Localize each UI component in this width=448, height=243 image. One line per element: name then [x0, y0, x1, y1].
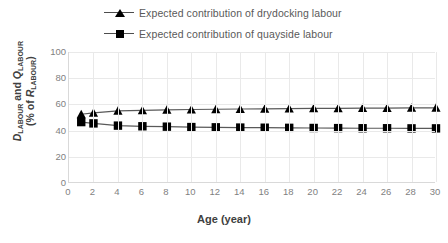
chart-legend: Expected contribution of drydocking labo… [104, 4, 342, 42]
data-point-marker [77, 118, 85, 126]
y-axis-title: DLABOUR and QLABOUR (% of RLABOUR) [11, 21, 37, 161]
y-tick-label: 100 [36, 47, 66, 57]
gridline-vertical [142, 52, 143, 182]
gridline-vertical [387, 52, 388, 182]
gridline-horizontal [69, 52, 435, 53]
y-axis-tick-labels: 020406080100 [36, 46, 66, 191]
gridline-horizontal [69, 157, 435, 158]
plot-area [68, 52, 435, 183]
gridline-vertical [216, 52, 217, 182]
y-tick-label: 80 [36, 73, 66, 83]
legend-marker-triangle-icon [104, 7, 134, 19]
gridline-vertical [191, 52, 192, 182]
gridline-vertical [265, 52, 266, 182]
x-tick-label: 24 [350, 187, 374, 197]
gridline-vertical [338, 52, 339, 182]
x-tick-label: 6 [129, 187, 153, 197]
gridline-horizontal [69, 131, 435, 132]
x-tick-label: 28 [399, 187, 423, 197]
gridline-vertical [118, 52, 119, 182]
legend-item-drydocking: Expected contribution of drydocking labo… [104, 4, 342, 21]
series-line-quayside [81, 122, 436, 128]
x-tick-label: 0 [56, 187, 80, 197]
legend-label-quayside: Expected contribution of quayside labour [134, 28, 333, 40]
y-tick-label: 60 [36, 99, 66, 109]
x-tick-label: 18 [276, 187, 300, 197]
x-axis-tick-labels: 024681012141618202224262830 [68, 187, 435, 199]
series-layer [69, 52, 436, 183]
gridline-vertical [436, 52, 437, 182]
gridline-vertical [314, 52, 315, 182]
x-tick-label: 10 [178, 187, 202, 197]
gridline-vertical [167, 52, 168, 182]
x-axis-title: Age (year) [0, 213, 448, 225]
gridline-horizontal [69, 104, 435, 105]
x-tick-label: 4 [105, 187, 129, 197]
gridline-vertical [93, 52, 94, 182]
x-tick-label: 20 [301, 187, 325, 197]
x-tick-label: 12 [203, 187, 227, 197]
gridline-vertical [240, 52, 241, 182]
series-line-drydocking [81, 108, 436, 114]
gridline-vertical [289, 52, 290, 182]
x-tick-label: 14 [227, 187, 251, 197]
x-tick-label: 16 [252, 187, 276, 197]
y-tick-label: 40 [36, 126, 66, 136]
x-tick-label: 2 [80, 187, 104, 197]
gridline-vertical [412, 52, 413, 182]
y-tick-label: 20 [36, 152, 66, 162]
x-tick-label: 30 [423, 187, 447, 197]
chart-root: Expected contribution of drydocking labo… [0, 0, 448, 243]
x-tick-label: 26 [374, 187, 398, 197]
gridline-vertical [363, 52, 364, 182]
x-tick-label: 8 [154, 187, 178, 197]
x-tick-label: 22 [325, 187, 349, 197]
legend-label-drydocking: Expected contribution of drydocking labo… [134, 7, 342, 19]
gridline-horizontal [69, 78, 435, 79]
legend-item-quayside: Expected contribution of quayside labour [104, 25, 342, 42]
legend-marker-square-icon [104, 28, 134, 40]
